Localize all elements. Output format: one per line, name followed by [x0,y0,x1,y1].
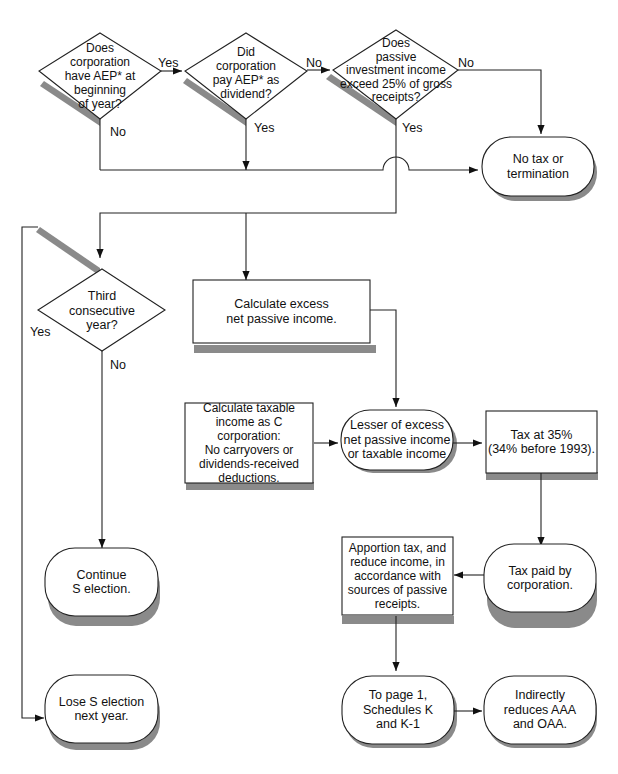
edge-label-passive-no: No [458,56,474,70]
node-third-year-text: Third consecutive year? [50,282,154,340]
edge-label-aep-start-yes: Yes [158,56,178,70]
node-aep-start-text: Does corporation have AEP* at beginning … [55,40,145,112]
node-tax-paid-text: Tax paid by corporation. [484,544,596,612]
flowchart-canvas [0,0,618,774]
node-aep-paid-text: Did corporation pay AEP* as dividend? [196,44,296,102]
node-tax-35-text: Tax at 35% (34% before 1993). [486,411,597,473]
node-lose-s-text: Lose S election next year. [45,675,158,743]
node-reduces-aaa-text: Indirectly reduces AAA and OAA. [484,676,596,744]
node-lesser-of-text: Lesser of excess net passive income or t… [341,410,453,470]
node-calc-excess-text: Calculate excess net passive income. [193,280,370,343]
edge-label-aep-start-no: No [110,125,126,139]
node-no-tax-text: No tax or termination [482,137,594,196]
node-continue-s-text: Continue S election. [45,548,158,616]
edge-label-third-no: No [110,358,126,372]
node-passive-25-text: Does passive investment income exceed 25… [326,36,466,106]
node-apportion-text: Apportion tax, and reduce income, in acc… [342,537,453,615]
node-calc-taxable-text: Calculate taxable income as C corporatio… [185,403,313,483]
edge-label-aep-paid-no: No [306,56,322,70]
edge-label-third-yes: Yes [30,325,50,339]
edge-label-passive-yes: Yes [402,121,422,135]
edge-label-aep-paid-yes: Yes [254,121,274,135]
node-to-page1-text: To page 1, Schedules K and K-1 [342,676,454,744]
